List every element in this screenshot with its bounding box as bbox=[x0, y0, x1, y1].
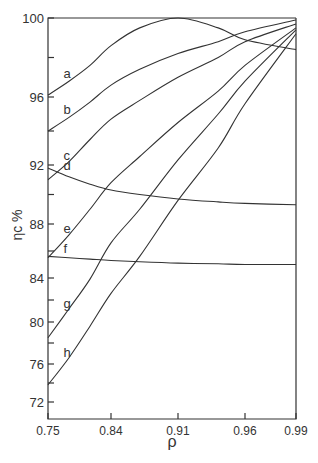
plot-frame bbox=[48, 18, 296, 419]
y-tick-label: 76 bbox=[30, 357, 44, 372]
curve-label-d: d bbox=[64, 158, 71, 173]
curve-e bbox=[48, 28, 296, 258]
x-tick-label: 0.96 bbox=[233, 424, 257, 438]
x-axis-label: ρ bbox=[167, 433, 176, 450]
curve-label-b: b bbox=[64, 102, 71, 117]
y-tick-label: 80 bbox=[30, 315, 44, 330]
curve-g bbox=[48, 30, 296, 338]
y-tick-label: 72 bbox=[30, 395, 44, 410]
y-tick-label: 100 bbox=[22, 11, 44, 26]
curve-f bbox=[48, 256, 296, 264]
x-tick-label: 0.84 bbox=[99, 424, 123, 438]
curve-label-e: e bbox=[64, 221, 71, 236]
curve-c bbox=[48, 24, 296, 180]
curve-label-a: a bbox=[64, 66, 72, 81]
curves bbox=[48, 18, 296, 385]
curve-label-g: g bbox=[64, 296, 71, 311]
y-tick-label: 96 bbox=[30, 90, 44, 105]
chart-svg: 727680848892961000.750.840.910.960.99 ab… bbox=[0, 0, 318, 463]
curve-label-f: f bbox=[64, 241, 68, 256]
x-tick-label: 0.99 bbox=[284, 424, 308, 438]
curve-label-h: h bbox=[64, 345, 71, 360]
curve-d bbox=[48, 168, 296, 205]
y-axis-label: ηc % bbox=[9, 209, 25, 240]
y-tick-label: 88 bbox=[30, 217, 44, 232]
curve-h bbox=[48, 34, 296, 385]
y-tick-label: 84 bbox=[30, 271, 44, 286]
x-tick-label: 0.75 bbox=[36, 424, 60, 438]
efficiency-chart: 727680848892961000.750.840.910.960.99 ab… bbox=[0, 0, 318, 463]
y-tick-label: 92 bbox=[30, 158, 44, 173]
curve-labels: abcdefgh bbox=[64, 66, 72, 360]
